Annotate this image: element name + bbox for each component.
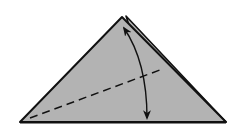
origami-diagram [0, 0, 241, 139]
folded-triangle [20, 17, 226, 123]
